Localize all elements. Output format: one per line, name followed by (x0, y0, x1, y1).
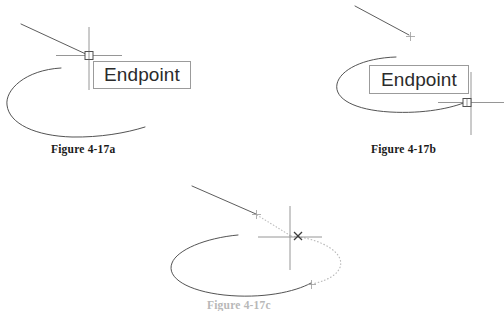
figure-b-plus-tick-marker (406, 32, 415, 41)
figure-b-line-segment (355, 6, 409, 35)
endpoint-tooltip-a: Endpoint (93, 61, 191, 89)
figure-a-endpoint-square-marker (85, 52, 93, 60)
figure-c-dotted-preview-line (257, 215, 291, 236)
figure-c-plus-tick-marker-upper (252, 210, 261, 219)
figure-caption-c: Figure 4-17c (207, 299, 271, 311)
figure-c-line-segment (192, 186, 256, 214)
figure-c-group (171, 186, 341, 296)
figure-a-line-segment (21, 24, 88, 55)
figure-c-dotted-preview-arc (291, 236, 341, 284)
endpoint-tooltip-b: Endpoint (369, 65, 469, 94)
figure-caption-a: Figure 4-17a (51, 143, 115, 155)
figure-c-plus-tick-marker-lower (307, 280, 316, 289)
figure-c-crosshair-cursor (258, 206, 322, 270)
figure-b-endpoint-square-marker (463, 99, 471, 107)
figure-caption-b: Figure 4-17b (371, 143, 436, 155)
